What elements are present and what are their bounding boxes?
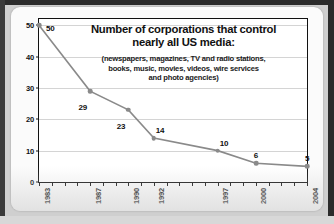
x-axis-tick-label: 2000 (259, 188, 268, 204)
x-axis-tick-mark (218, 182, 219, 186)
page-frame-bottom-edge (0, 216, 334, 224)
y-axis-tick-label: 40 (26, 52, 34, 61)
x-axis-tick-mark (39, 182, 40, 186)
x-axis-tick-mark (243, 182, 244, 186)
x-axis-tick-mark (116, 182, 117, 186)
data-point-label: 29 (79, 103, 88, 112)
page-frame-right-edge (328, 0, 334, 224)
data-point-marker (215, 148, 220, 153)
x-axis-tick-label: 1992 (157, 188, 166, 204)
x-axis-tick-mark (205, 182, 206, 186)
x-axis-tick-mark (307, 182, 308, 186)
data-point-label: 5 (305, 154, 309, 163)
series-line (39, 19, 307, 182)
y-axis-tick-label: 10 (26, 146, 34, 155)
x-axis-tick-mark (179, 182, 180, 186)
x-axis-tick-mark (167, 182, 168, 186)
x-axis-tick-label: 1990 (132, 188, 141, 204)
x-axis-tick-mark (77, 182, 78, 186)
data-point-label: 50 (46, 24, 55, 33)
x-axis-tick-label: 1987 (94, 188, 103, 204)
x-axis-tick-mark (230, 182, 231, 186)
data-point-marker (37, 23, 42, 28)
data-point-marker (254, 161, 259, 166)
x-axis-tick-label: 2004 (311, 188, 320, 204)
x-axis-tick-mark (192, 182, 193, 186)
page-frame-top-edge (0, 0, 334, 5)
y-axis-tick-label: 20 (26, 115, 34, 124)
x-axis-tick-mark (141, 182, 142, 186)
x-axis-tick-mark (294, 182, 295, 186)
x-axis-tick-mark (128, 182, 129, 186)
data-point-label: 23 (117, 122, 126, 131)
data-point-marker (152, 136, 157, 141)
y-axis-tick-label: 0 (30, 178, 34, 187)
data-point-label: 10 (220, 139, 229, 148)
x-axis-tick-mark (90, 182, 91, 186)
data-point-marker (88, 89, 93, 94)
x-axis-tick-label: 1997 (221, 188, 230, 204)
x-axis-tick-mark (65, 182, 66, 186)
data-point-marker (126, 108, 131, 113)
data-point-marker (305, 164, 310, 169)
y-axis-tick-label: 30 (26, 83, 34, 92)
line-chart: 0102030405019831987199019921997200020045… (14, 7, 320, 207)
x-axis-tick-mark (154, 182, 155, 186)
x-axis-tick-mark (269, 182, 270, 186)
x-axis-tick-mark (256, 182, 257, 186)
x-axis-tick-mark (52, 182, 53, 186)
data-point-label: 14 (156, 126, 165, 135)
page-frame-left-edge (0, 0, 5, 224)
data-point-label: 6 (254, 151, 258, 160)
x-axis-tick-mark (281, 182, 282, 186)
x-axis-tick-mark (103, 182, 104, 186)
plot-area: 0102030405019831987199019921997200020045… (38, 18, 308, 183)
x-axis-tick-label: 1983 (43, 188, 52, 204)
screenshot-root: 0102030405019831987199019921997200020045… (0, 0, 334, 224)
y-axis-tick-label: 50 (26, 21, 34, 30)
